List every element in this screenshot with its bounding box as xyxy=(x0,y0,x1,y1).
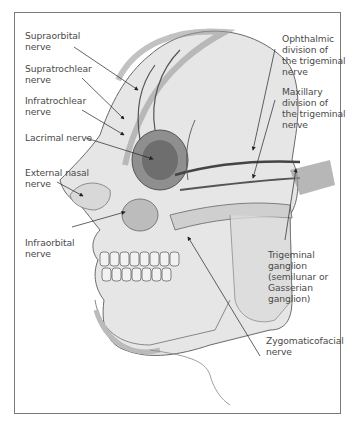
label-lacrimal-nerve: Lacrimal nerve xyxy=(25,132,92,143)
label-infratrochlear-nerve: Infratrochlear nerve xyxy=(25,95,86,117)
label-infraorbital-nerve: Infraorbital nerve xyxy=(25,237,75,259)
label-supraorbital-nerve: Supraorbital nerve xyxy=(25,30,80,52)
label-maxillary-division: Maxillary division of the trigeminal ner… xyxy=(282,86,346,130)
label-external-nasal-nerve: External nasal nerve xyxy=(25,167,89,189)
label-supratrochlear-nerve: Supratrochlear nerve xyxy=(25,63,92,85)
label-zygomaticofacial-nerve: Zygomaticofacial nerve xyxy=(266,335,344,357)
label-ophthalmic-division: Ophthalmic division of the trigeminal ne… xyxy=(282,33,346,77)
label-trigeminal-ganglion: Trigeminal ganglion (semilunar or Gasser… xyxy=(268,249,328,304)
